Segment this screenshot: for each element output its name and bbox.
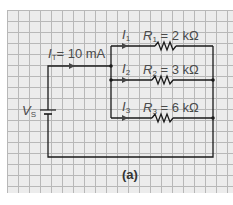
branch-3-current-label: I3 bbox=[122, 100, 130, 115]
figure-caption: (a) bbox=[122, 167, 138, 182]
arrow-i1-icon bbox=[122, 43, 128, 49]
arrow-i2-icon bbox=[122, 77, 128, 83]
resistor-2-label: R2 = 3 kΩ bbox=[143, 63, 199, 78]
resistor-1-label: R1 = 2 kΩ bbox=[143, 29, 199, 44]
node-dot bbox=[211, 78, 215, 82]
total-current-label: IT= 10 mA bbox=[48, 47, 105, 62]
node-dot bbox=[109, 78, 113, 82]
node-dot bbox=[211, 116, 215, 120]
wire-left-top bbox=[48, 66, 111, 105]
branch-1-current-label: I1 bbox=[122, 28, 130, 43]
source-voltage-label: VS bbox=[22, 104, 36, 119]
branch-2-current-label: I2 bbox=[122, 62, 130, 77]
resistor-3-label: R3 = 6 kΩ bbox=[143, 101, 199, 116]
arrow-i3-icon bbox=[122, 115, 128, 121]
node-dot bbox=[109, 64, 113, 68]
arrow-it-icon bbox=[69, 63, 75, 69]
